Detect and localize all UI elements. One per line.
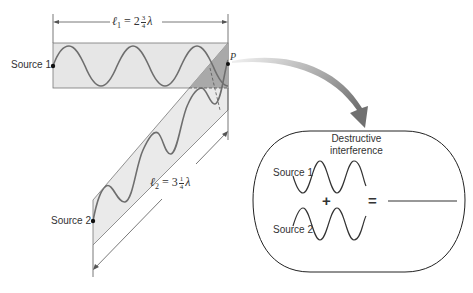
l2-subscript: 2 (155, 182, 159, 191)
inset-title-line1: Destructive (330, 133, 383, 145)
point-p-dot (226, 62, 230, 66)
l2-equals: = (162, 175, 169, 189)
l1-unit: λ (147, 14, 152, 28)
source-1-dot (51, 64, 55, 68)
source-2-dot (91, 219, 95, 223)
plus-sign: + (322, 193, 331, 208)
l1-denominator: 4 (142, 23, 146, 30)
l2-denominator: 4 (180, 184, 184, 191)
l1-whole: 2 (134, 14, 140, 28)
inset-title: Destructive interference (330, 133, 383, 157)
l1-label: ℓ1 = 234λ (112, 15, 152, 30)
inset-source-1-label: Source 1 (273, 168, 313, 178)
source-1-label: Source 1 (11, 60, 51, 70)
point-p-label: P (230, 52, 236, 62)
l1-fraction: 34 (141, 15, 147, 30)
l2-label: ℓ2 = 314λ (150, 176, 190, 191)
diagram-graphics (0, 0, 473, 293)
l2-fraction: 14 (179, 176, 185, 191)
inset-title-line2: interference (330, 145, 383, 157)
equals-sign: = (368, 193, 377, 208)
curved-arrow (232, 58, 368, 128)
inset-source-2-label: Source 2 (273, 225, 313, 235)
l1-subscript: 1 (117, 21, 121, 30)
l2-whole: 3 (172, 175, 178, 189)
l1-equals: = (124, 14, 131, 28)
interference-diagram: Source 1 Source 2 P ℓ1 = 234λ ℓ2 = 314λ … (0, 0, 473, 293)
source-2-label: Source 2 (51, 216, 91, 226)
l2-unit: λ (185, 175, 190, 189)
